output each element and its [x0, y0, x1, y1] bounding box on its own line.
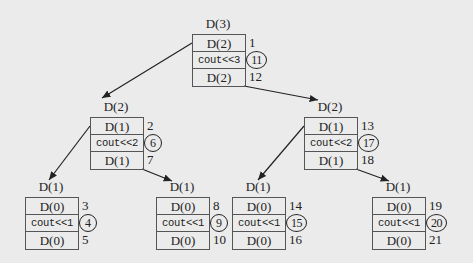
recursive-call: D(0)	[157, 232, 209, 249]
step-number: 13	[361, 117, 374, 134]
node-title: D(1)	[156, 179, 208, 195]
recursive-call: D(0)	[26, 198, 78, 215]
step-number: 21	[429, 231, 442, 248]
step-number-circled: 15	[286, 214, 307, 232]
output-statement: cout<<1	[233, 215, 285, 232]
output-statement: cout<<1	[373, 215, 425, 232]
step-number: 8	[213, 197, 220, 214]
step-number-circled: 6	[144, 134, 162, 152]
frame-box: D(1)cout<<2D(1)	[304, 117, 358, 170]
recursive-call: D(2)	[193, 35, 245, 52]
step-number: 14	[289, 197, 302, 214]
step-number: 19	[429, 197, 442, 214]
step-number: 5	[82, 231, 89, 248]
step-number: 1	[249, 34, 256, 51]
node-title: D(2)	[304, 99, 356, 115]
output-statement: cout<<2	[91, 135, 143, 152]
node-title: D(1)	[372, 179, 424, 195]
frame-box: D(0)cout<<1D(0)	[232, 197, 286, 250]
edge-left-leftleaf	[49, 126, 90, 180]
recursive-call: D(0)	[373, 198, 425, 215]
node-title: D(1)	[232, 179, 284, 195]
output-statement: cout<<2	[305, 135, 357, 152]
step-number-circled: 11	[246, 51, 267, 69]
step-number: 3	[82, 197, 89, 214]
step-number-circled: 17	[358, 134, 379, 152]
frame-box: D(0)cout<<1D(0)	[372, 197, 426, 250]
node-title: D(1)	[25, 179, 77, 195]
node-title: D(3)	[192, 16, 244, 32]
recursive-call: D(2)	[193, 69, 245, 86]
step-number-circled: 20	[426, 214, 447, 232]
recursive-call: D(1)	[305, 118, 357, 135]
frame-box: D(0)cout<<1D(0)	[25, 197, 79, 250]
edge-right-leftleaf	[258, 126, 304, 180]
output-statement: cout<<1	[157, 215, 209, 232]
step-number-circled: 9	[210, 214, 228, 232]
recursive-call: D(0)	[233, 198, 285, 215]
step-number: 2	[147, 117, 154, 134]
frame-box: D(1)cout<<2D(1)	[90, 117, 144, 170]
recursive-call: D(1)	[91, 152, 143, 169]
recursive-call: D(0)	[373, 232, 425, 249]
recursive-call: D(0)	[157, 198, 209, 215]
edge-root-right	[244, 86, 318, 100]
frame-box: D(0)cout<<1D(0)	[156, 197, 210, 250]
recursive-call: D(0)	[26, 232, 78, 249]
step-number: 10	[213, 231, 226, 248]
node-title: D(2)	[90, 99, 142, 115]
recursive-call: D(0)	[233, 232, 285, 249]
step-number: 12	[249, 68, 262, 85]
step-number: 18	[361, 151, 374, 168]
recursive-call: D(1)	[305, 152, 357, 169]
recursive-call: D(1)	[91, 118, 143, 135]
step-number: 16	[289, 231, 302, 248]
output-statement: cout<<1	[26, 215, 78, 232]
output-statement: cout<<3	[193, 52, 245, 69]
step-number-circled: 4	[79, 214, 97, 232]
step-number: 7	[147, 151, 154, 168]
edge-root-left	[102, 43, 192, 98]
frame-box: D(2)cout<<3D(2)	[192, 34, 246, 87]
